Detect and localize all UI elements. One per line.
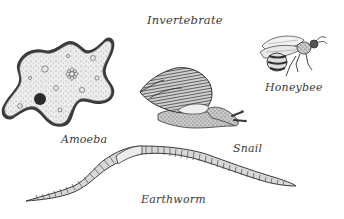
illustration-layer (0, 0, 344, 219)
amoeba-nucleus (34, 93, 46, 105)
invertebrate-illustration: Invertebrate Amoeba Snail Honeybee Earth… (0, 0, 344, 219)
earthworm-label: Earthworm (141, 193, 206, 206)
snail-label: Snail (233, 142, 262, 155)
amoeba-label: Amoeba (61, 133, 107, 146)
honeybee-label: Honeybee (265, 81, 323, 94)
snail-illustration (140, 68, 247, 128)
honeybee-illustration (260, 36, 327, 76)
amoeba-illustration (2, 38, 115, 127)
page-title: Invertebrate (147, 13, 223, 27)
